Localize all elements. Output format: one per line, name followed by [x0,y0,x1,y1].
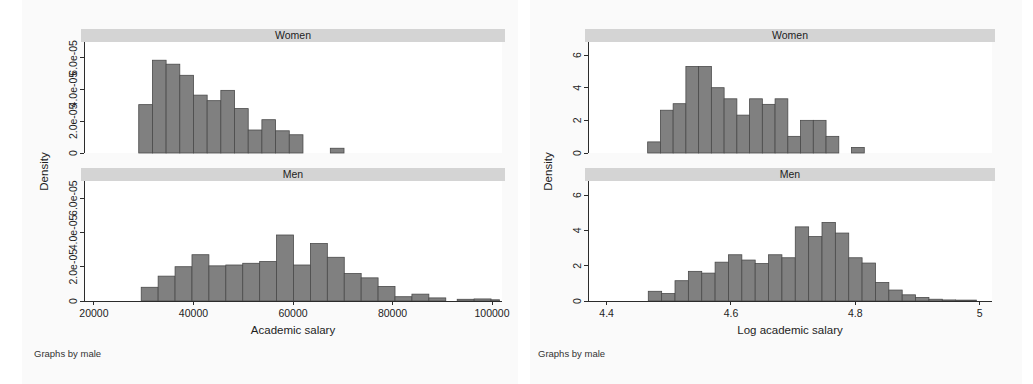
panel-title-women: Women [772,29,808,41]
y-tick-label-men-2: 4.0e-05 [67,214,79,250]
histogram-bar [344,274,361,301]
histogram-bar [662,294,675,301]
histogram-bar [235,109,249,153]
y-tick-label-women-3: 6 [571,52,583,58]
figure-academic-salary: Women02.0e-054.0e-056.0e-05Men02.0e-054.… [22,0,518,384]
y-tick-label-women-1: 2.0e-05 [67,103,79,139]
histogram-bar [782,258,795,301]
x-tick-label-1: 4.6 [724,307,739,319]
histogram-bar [775,99,788,153]
x-tick-label-0: 4.4 [599,307,614,319]
y-tick-label-men-2: 4 [571,227,583,233]
histogram-bar [289,135,303,153]
histogram-bar [293,265,310,301]
x-tick-label-3: 5 [977,307,983,319]
histogram-bar [715,262,728,301]
histogram-bar [648,142,661,153]
histogram-bar [395,297,412,301]
histogram-bar [835,233,848,301]
histogram-bar [243,263,260,301]
figure-left-canvas: Women02.0e-054.0e-056.0e-05Men02.0e-054.… [22,0,518,384]
y-axis-title: Density [38,152,50,191]
y-axis-title: Density [542,152,554,191]
histogram-bar [412,294,429,301]
y-tick-label-women-0: 0 [67,150,79,156]
histogram-bar [262,120,276,153]
histogram-bar [755,264,768,301]
panel-men: Men0246 [571,168,995,304]
x-tick-label-4: 100000 [475,307,510,319]
histogram-bar [660,110,673,153]
histogram-bar [180,75,194,153]
y-tick-label-women-2: 4 [571,85,583,91]
histogram-bar [742,260,755,301]
histogram-bar [711,88,724,153]
histogram-bar [361,278,378,301]
histogram-bar [852,147,865,153]
panel-women: Women02.0e-054.0e-056.0e-05 [67,29,505,156]
x-axis-title: Academic salary [251,324,336,336]
histogram-bar [813,120,826,153]
x-axis-title: Log academic salary [737,324,843,336]
histogram-bar [822,222,835,301]
x-tick-label-2: 4.8 [848,307,863,319]
histogram-bar [310,244,327,301]
histogram-bar [875,282,888,301]
histogram-bar [724,99,737,153]
histogram-bar [788,136,801,153]
histogram-bar [702,273,715,301]
y-tick-label-men-1: 2.0e-05 [67,249,79,285]
histogram-bar [226,265,243,301]
histogram-bar [862,263,875,301]
histogram-bar [902,295,915,301]
figure-log-academic-salary: Women0246Men02464.44.64.85Log academic s… [530,0,1022,384]
histogram-bar [769,255,782,301]
x-tick-label-0: 20000 [79,307,108,319]
panel-title-men: Men [283,168,304,180]
figure-right-canvas: Women0246Men02464.44.64.85Log academic s… [530,0,1022,384]
histogram-bar [688,271,701,301]
y-tick-label-men-1: 2 [571,263,583,269]
histogram-bar [193,95,207,153]
x-tick-label-1: 40000 [179,307,208,319]
y-tick-label-men-0: 0 [571,298,583,304]
histogram-bar [849,258,862,301]
y-tick-label-women-0: 0 [571,150,583,156]
histogram-bar [728,255,741,301]
y-tick-label-women-1: 2 [571,117,583,123]
histogram-bar [686,66,699,153]
y-tick-label-men-3: 6.0e-05 [67,180,79,216]
histogram-bar [378,286,395,301]
histogram-bar [277,235,294,301]
histogram-bar [158,276,175,301]
histogram-bar [699,66,712,153]
histogram-bar [276,131,290,153]
histogram-bar [762,104,775,153]
histogram-bar [889,290,902,301]
histogram-bar [809,237,822,301]
histogram-bar [327,257,344,301]
panel-men: Men02.0e-054.0e-056.0e-05 [67,168,505,304]
histogram-bar [750,99,763,153]
figure-note: Graphs by male [34,348,101,359]
histogram-bar [648,291,661,301]
histogram-bar [673,104,686,153]
histogram-bar [260,262,277,301]
panel-title-men: Men [780,168,801,180]
histogram-bar [207,101,221,153]
histogram-bar [675,281,688,301]
histogram-bar [166,64,180,153]
y-tick-label-women-2: 4.0e-05 [67,72,79,108]
histogram-bar [826,136,839,153]
histogram-bar [330,148,344,153]
histogram-bar [175,267,192,301]
x-tick-label-3: 80000 [378,307,407,319]
screenshot-root: Women02.0e-054.0e-056.0e-05Men02.0e-054.… [0,0,1033,384]
panel-title-women: Women [275,29,311,41]
histogram-bar [916,297,929,301]
histogram-bar [801,120,814,153]
y-tick-label-women-3: 6.0e-05 [67,40,79,76]
histogram-bar [221,90,235,153]
histogram-bar [209,266,226,301]
histogram-bar [248,130,262,153]
